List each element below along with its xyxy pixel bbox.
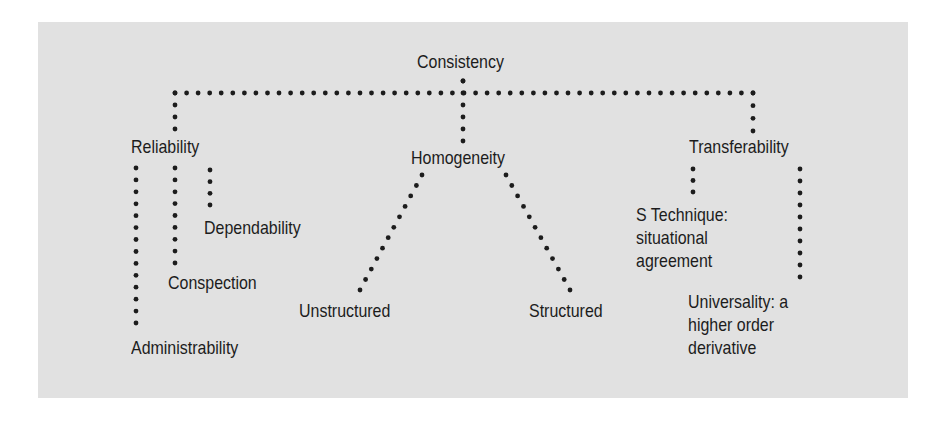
node-dependability: Dependability: [204, 216, 301, 239]
node-structured: Structured: [529, 299, 603, 322]
node-conspection: Conspection: [168, 271, 257, 294]
s-technique-line-1: S Technique:: [636, 203, 728, 226]
node-consistency: Consistency: [417, 50, 504, 73]
universality-line-1: Universality: a: [688, 290, 788, 313]
node-administrability: Administrability: [131, 336, 238, 359]
node-transferability: Transferability: [689, 135, 789, 158]
node-s-technique: S Technique: situational agreement: [636, 203, 728, 272]
s-technique-line-2: situational: [636, 226, 728, 249]
node-reliability: Reliability: [131, 135, 199, 158]
s-technique-line-3: agreement: [636, 249, 728, 272]
node-universality: Universality: a higher order derivative: [688, 290, 788, 359]
universality-line-2: higher order: [688, 313, 788, 336]
universality-line-3: derivative: [688, 336, 788, 359]
node-homogeneity: Homogeneity: [411, 146, 505, 169]
node-unstructured: Unstructured: [299, 299, 390, 322]
